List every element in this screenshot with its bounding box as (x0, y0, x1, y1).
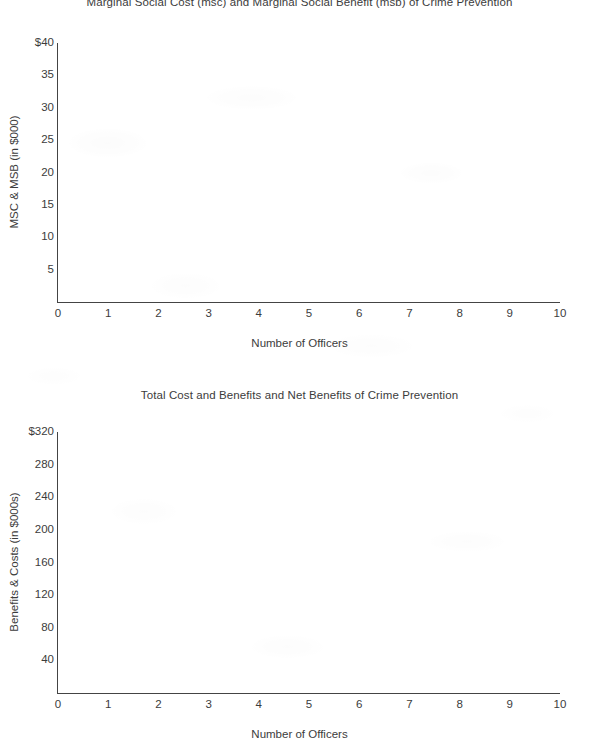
y-tick-label: $320 (28, 426, 54, 438)
x-axis-label-total: Number of Officers (0, 728, 599, 740)
x-tick-label: 6 (356, 308, 362, 320)
x-tick-label: 2 (155, 699, 161, 711)
y-tick-label: 40 (41, 655, 54, 667)
y-tick-label: 15 (41, 199, 54, 211)
x-tick-label: 7 (406, 308, 412, 320)
y-tick-label: 10 (41, 232, 54, 244)
y-tick-label: 200 (35, 524, 54, 536)
x-tick-label: 6 (356, 699, 362, 711)
y-tick-label: 20 (41, 167, 54, 179)
x-tick-label: 1 (105, 308, 111, 320)
x-tick-label: 3 (205, 308, 211, 320)
y-axis-label-total: Benefits & Costs (in $000s) (8, 481, 20, 643)
x-tick-label: 0 (55, 699, 61, 711)
y-tick-label: 25 (41, 134, 54, 146)
x-tick-label: 3 (205, 699, 211, 711)
x-tick-label: 9 (507, 308, 513, 320)
x-tick-label: 1 (105, 699, 111, 711)
y-axis-label-marginal: MSC & MSB (in $000) (8, 102, 20, 242)
chart-title-marginal: Marginal Social Cost (msc) and Marginal … (0, 0, 599, 8)
y-tick-label: 120 (35, 589, 54, 601)
x-tick-label: 4 (256, 699, 262, 711)
x-tick-label: 8 (456, 308, 462, 320)
y-tick-label: 280 (35, 459, 54, 471)
y-tick-label: 160 (35, 557, 54, 569)
plot-area-total: $320 280 240 200 160 120 80 40 0 1 2 3 4… (57, 432, 560, 694)
x-tick-label: 10 (554, 308, 567, 320)
x-tick-label: 10 (554, 699, 567, 711)
figure-marginal-social-cost-benefit: Marginal Social Cost (msc) and Marginal … (0, 0, 599, 380)
x-tick-label: 5 (306, 699, 312, 711)
figure-total-cost-benefits: Total Cost and Benefits and Net Benefits… (0, 380, 599, 752)
x-axis-label-marginal: Number of Officers (0, 337, 599, 349)
y-tick-label: $40 (35, 37, 54, 49)
y-tick-label: 30 (41, 102, 54, 114)
x-tick-label: 2 (155, 308, 161, 320)
x-tick-label: 4 (256, 308, 262, 320)
x-tick-label: 0 (55, 308, 61, 320)
y-tick-label: 240 (35, 492, 54, 504)
x-tick-label: 5 (306, 308, 312, 320)
x-tick-label: 9 (507, 699, 513, 711)
plot-area-marginal: $40 35 30 25 20 15 10 5 0 1 2 3 4 5 6 7 … (57, 43, 560, 303)
x-tick-label: 7 (406, 699, 412, 711)
chart-title-total: Total Cost and Benefits and Net Benefits… (0, 389, 599, 401)
y-tick-label: 5 (48, 264, 54, 276)
y-tick-label: 35 (41, 70, 54, 82)
y-tick-label: 80 (41, 622, 54, 634)
x-tick-label: 8 (456, 699, 462, 711)
